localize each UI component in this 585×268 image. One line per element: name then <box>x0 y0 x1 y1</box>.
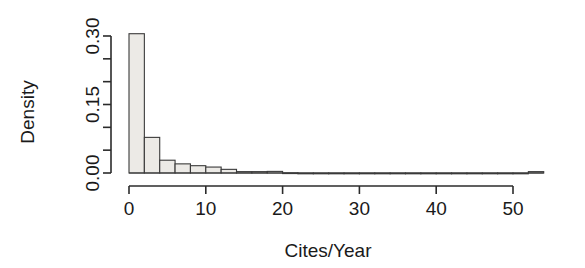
y-axis-tick-label: 0.15 <box>82 86 103 123</box>
x-axis-ticks <box>129 186 513 194</box>
x-axis-tick-label: 40 <box>426 198 447 219</box>
x-axis-title: Cites/Year <box>285 240 373 261</box>
histogram-bars <box>129 34 544 174</box>
x-axis-tick-label: 30 <box>349 198 370 219</box>
histogram-plot-area: 0.000.150.30 01020304050 Density Cites/Y… <box>0 0 585 268</box>
x-axis: 01020304050 <box>124 186 524 219</box>
histogram-bar <box>175 164 190 173</box>
histogram-figure: 0.000.150.30 01020304050 Density Cites/Y… <box>0 0 585 268</box>
histogram-bar <box>144 137 159 173</box>
histogram-bar <box>160 160 175 173</box>
y-axis-tick-labels: 0.000.150.30 <box>82 17 103 191</box>
y-axis-ticks <box>103 36 111 173</box>
x-axis-tick-label: 10 <box>195 198 216 219</box>
y-axis-title: Density <box>17 80 38 144</box>
x-axis-tick-label: 50 <box>502 198 523 219</box>
histogram-bar <box>129 34 144 173</box>
y-axis: 0.000.150.30 <box>82 17 111 191</box>
x-axis-tick-label: 20 <box>272 198 293 219</box>
x-axis-tick-labels: 01020304050 <box>124 198 524 219</box>
y-axis-tick-label: 0.00 <box>82 155 103 192</box>
histogram-bar <box>190 166 205 173</box>
histogram-bar <box>206 167 221 173</box>
x-axis-tick-label: 0 <box>124 198 135 219</box>
y-axis-tick-label: 0.30 <box>82 17 103 54</box>
